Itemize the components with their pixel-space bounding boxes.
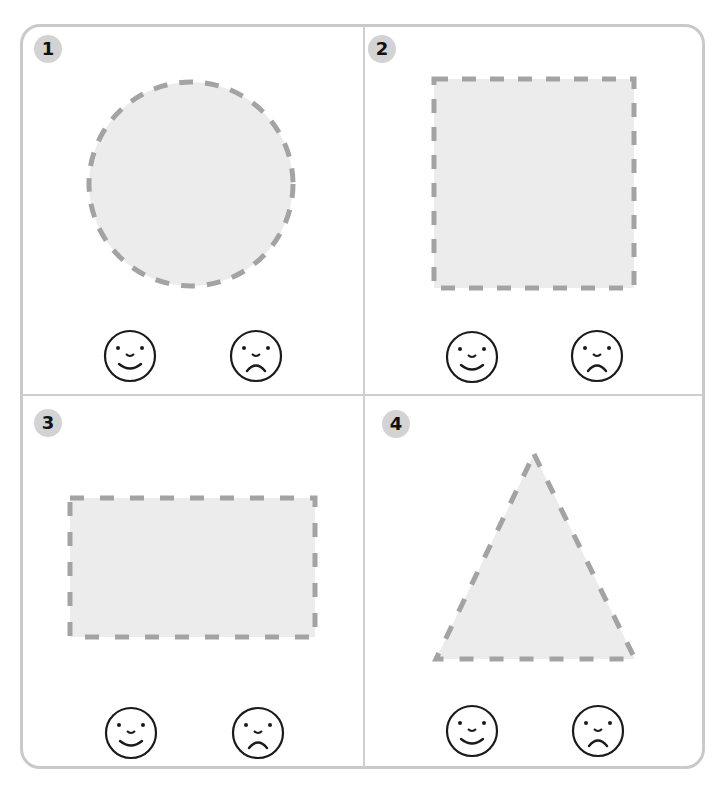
panel-3-sad-face-icon[interactable] bbox=[233, 708, 283, 758]
panel-3-rectangle-shape bbox=[70, 498, 315, 637]
panel-2-sad-face-icon[interactable] bbox=[572, 331, 622, 381]
shapes-layer bbox=[0, 0, 722, 785]
panel-4-sad-face-icon[interactable] bbox=[573, 706, 623, 756]
panel-2-happy-face-icon[interactable] bbox=[447, 332, 497, 382]
panel-3-happy-face-icon[interactable] bbox=[106, 708, 156, 758]
panel-2-square-shape bbox=[434, 79, 634, 288]
panel-1-sad-face-icon[interactable] bbox=[231, 331, 281, 381]
panel-4-happy-face-icon[interactable] bbox=[447, 706, 497, 756]
panel-4-triangle-shape bbox=[436, 454, 635, 659]
panel-1-happy-face-icon[interactable] bbox=[105, 331, 155, 381]
panel-1-circle-shape bbox=[89, 82, 293, 286]
